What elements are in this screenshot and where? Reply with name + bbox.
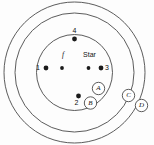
outer-ring (4, 2, 145, 143)
node-d[interactable]: D (135, 99, 147, 111)
label-star: Star (83, 51, 97, 58)
node-b[interactable]: B (84, 97, 96, 109)
orbital-diagram-svg: 1 3 4 2 f Star A B C D (0, 0, 154, 145)
dot-3 (99, 66, 104, 71)
node-c-label: C (126, 91, 131, 99)
dot-2 (76, 94, 81, 99)
dot-f (60, 66, 64, 70)
label-1: 1 (36, 64, 40, 71)
label-3: 3 (105, 64, 109, 71)
node-a[interactable]: A (92, 82, 104, 94)
label-2: 2 (75, 99, 79, 106)
label-f: f (62, 50, 65, 59)
label-4: 4 (73, 27, 77, 34)
diagram-canvas: 1 3 4 2 f Star A B C D (0, 0, 154, 145)
node-a-label: A (95, 84, 101, 92)
node-c[interactable]: C (122, 89, 134, 101)
dot-star (87, 66, 91, 70)
node-d-label: D (138, 101, 144, 109)
dot-1 (44, 66, 49, 71)
node-b-label: B (88, 99, 93, 107)
dot-4 (72, 37, 77, 42)
